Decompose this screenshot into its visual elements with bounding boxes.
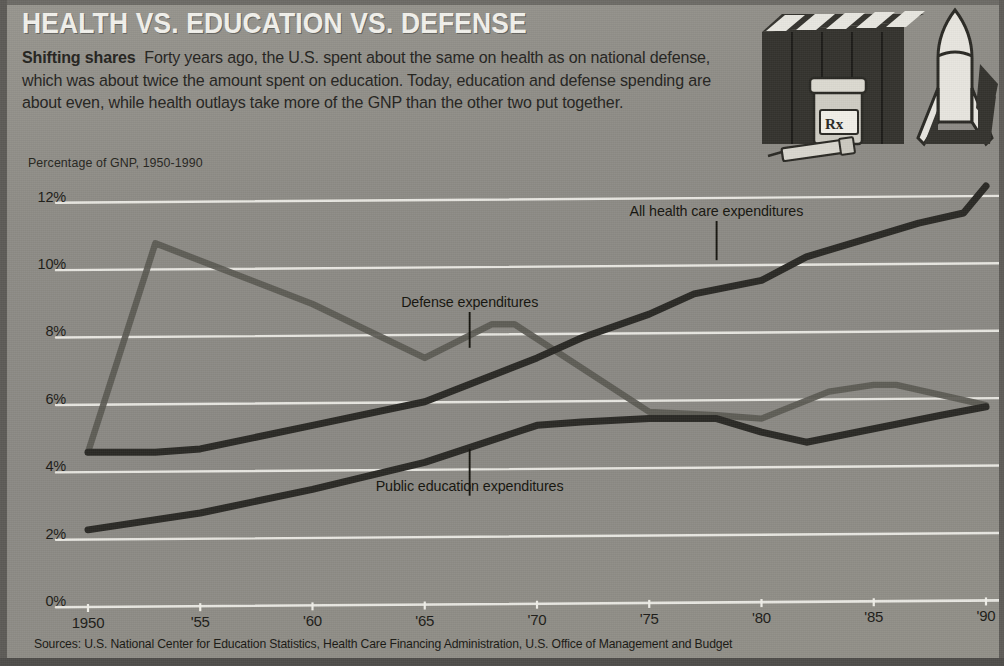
x-axis-label: 1950 — [58, 614, 118, 631]
frame-edge-bottom — [0, 658, 1004, 666]
y-axis-label: 2% — [20, 526, 66, 542]
y-axis-label: 10% — [20, 256, 66, 272]
x-axis-label: '55 — [170, 613, 230, 630]
annotation-leaders — [470, 221, 717, 496]
frame-edge-left — [0, 0, 7, 666]
y-axis-label: 0% — [20, 593, 66, 609]
x-axis-label: '70 — [507, 611, 567, 628]
line-chart: 0%2%4%6%8%10%12%1950'55'60'65'70'75'80'8… — [0, 0, 1004, 666]
gridline — [56, 533, 1000, 540]
y-axis-label: 8% — [20, 323, 66, 339]
x-axis-label: '65 — [395, 612, 455, 629]
gridline — [56, 600, 1000, 607]
x-axis-label: '60 — [283, 612, 343, 629]
y-axis-label: 6% — [20, 391, 66, 407]
gridline — [56, 196, 1000, 203]
frame-edge-top — [0, 0, 1004, 5]
gridline — [56, 263, 1000, 270]
series-annotation: All health care expenditures — [630, 203, 804, 219]
infographic-page: HEALTH VS. EDUCATION VS. DEFENSE Shiftin… — [0, 0, 1004, 666]
series-line-all-health-care-expenditures — [88, 186, 986, 452]
x-axis-label: '75 — [619, 610, 679, 627]
y-axis-label: 4% — [20, 458, 66, 474]
x-axis-label: '85 — [844, 608, 904, 625]
x-axis-label: '90 — [956, 607, 1004, 624]
frame-edge-right — [999, 0, 1004, 666]
gridline — [56, 466, 1000, 473]
series-line-defense-expenditures — [88, 243, 986, 452]
sources-note: Sources: U.S. National Center for Educat… — [34, 637, 732, 651]
series-annotation: Public education expenditures — [376, 478, 564, 494]
series-annotation: Defense expenditures — [401, 294, 538, 310]
x-axis-label: '80 — [732, 609, 792, 626]
gridline — [56, 398, 1000, 405]
y-axis-label: 12% — [20, 189, 66, 205]
